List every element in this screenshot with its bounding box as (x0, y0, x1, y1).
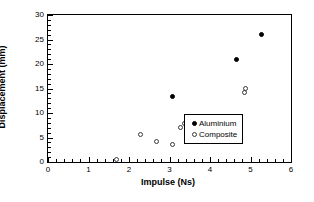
x-tick-major (170, 157, 171, 162)
y-axis-title: Displacement (mm) (0, 45, 7, 128)
x-tick-label: 5 (248, 166, 252, 174)
y-tick-label: 0 (40, 158, 44, 166)
y-tick-label: 10 (35, 109, 44, 117)
plot-inner: 0510152025300123456 (48, 15, 291, 162)
y-tick-minor (48, 133, 51, 134)
x-tick-major (210, 157, 211, 162)
y-tick-minor (48, 49, 51, 50)
x-tick-minor (153, 159, 154, 162)
x-tick-major (129, 157, 130, 162)
y-tick-minor (48, 147, 51, 148)
x-tick-minor (186, 159, 187, 162)
legend-label: Aluminium (199, 120, 236, 128)
y-tick-label: 15 (35, 85, 44, 93)
legend-item: Aluminium (189, 118, 237, 129)
y-tick-major (48, 162, 53, 163)
y-tick-minor (48, 118, 51, 119)
y-tick-label: 20 (35, 60, 44, 68)
x-tick-label: 1 (86, 166, 90, 174)
y-tick-label: 5 (40, 134, 44, 142)
y-tick-major (48, 15, 53, 16)
x-tick-major (291, 157, 292, 162)
x-tick-minor (218, 159, 219, 162)
y-tick-minor (48, 74, 51, 75)
filled-circle-icon (189, 119, 199, 129)
y-tick-minor (48, 35, 51, 36)
y-tick-minor (48, 84, 51, 85)
y-tick-minor (48, 108, 51, 109)
x-tick-minor (137, 159, 138, 162)
legend-marker-dot (192, 121, 197, 126)
x-tick-minor (242, 159, 243, 162)
y-tick-minor (48, 20, 51, 21)
x-tick-label: 2 (127, 166, 131, 174)
x-tick-minor (202, 159, 203, 162)
x-tick-major (251, 157, 252, 162)
y-tick-minor (48, 142, 51, 143)
y-tick-major (48, 89, 53, 90)
x-tick-minor (80, 159, 81, 162)
x-tick-minor (97, 159, 98, 162)
y-tick-minor (48, 103, 51, 104)
plot-area: 0510152025300123456 (47, 14, 292, 163)
x-tick-major (48, 157, 49, 162)
chart-legend: AluminiumComposite (184, 114, 243, 144)
y-tick-minor (48, 93, 51, 94)
open-circle-icon (189, 130, 199, 140)
x-tick-minor (72, 159, 73, 162)
x-tick-label: 0 (46, 166, 50, 174)
y-tick-minor (48, 128, 51, 129)
x-tick-major (89, 157, 90, 162)
x-axis-title: Impulse (Ns) (141, 177, 195, 187)
x-tick-minor (145, 159, 146, 162)
y-tick-minor (48, 54, 51, 55)
x-tick-minor (178, 159, 179, 162)
x-tick-minor (283, 159, 284, 162)
data-point-aluminium (170, 94, 175, 99)
y-tick-minor (48, 152, 51, 153)
data-point-composite (138, 132, 143, 137)
x-tick-minor (161, 159, 162, 162)
x-tick-minor (275, 159, 276, 162)
y-tick-minor (48, 123, 51, 124)
data-point-aluminium (259, 32, 264, 37)
y-tick-major (48, 64, 53, 65)
data-point-composite (114, 157, 119, 162)
y-tick-major (48, 113, 53, 114)
data-point-composite (243, 86, 248, 91)
x-tick-label: 4 (208, 166, 212, 174)
y-tick-minor (48, 44, 51, 45)
scatter-chart-figure: Displacement (mm) 0510152025300123456 Im… (0, 0, 314, 202)
x-tick-minor (267, 159, 268, 162)
x-tick-minor (194, 159, 195, 162)
y-tick-minor (48, 59, 51, 60)
x-tick-minor (56, 159, 57, 162)
data-point-aluminium (234, 57, 239, 62)
y-tick-minor (48, 98, 51, 99)
x-tick-label: 3 (167, 166, 171, 174)
x-tick-minor (226, 159, 227, 162)
y-tick-label: 25 (35, 36, 44, 44)
y-tick-minor (48, 30, 51, 31)
x-tick-minor (64, 159, 65, 162)
x-tick-minor (121, 159, 122, 162)
y-tick-minor (48, 79, 51, 80)
x-tick-minor (234, 159, 235, 162)
x-tick-label: 6 (289, 166, 293, 174)
data-point-composite (170, 142, 175, 147)
y-tick-label: 30 (35, 11, 44, 19)
y-tick-major (48, 138, 53, 139)
x-tick-minor (105, 159, 106, 162)
y-tick-minor (48, 69, 51, 70)
data-point-composite (154, 139, 159, 144)
legend-item: Composite (189, 129, 237, 140)
x-tick-minor (259, 159, 260, 162)
y-tick-minor (48, 25, 51, 26)
legend-marker-dot (192, 132, 197, 137)
y-tick-major (48, 40, 53, 41)
legend-label: Composite (199, 131, 237, 139)
